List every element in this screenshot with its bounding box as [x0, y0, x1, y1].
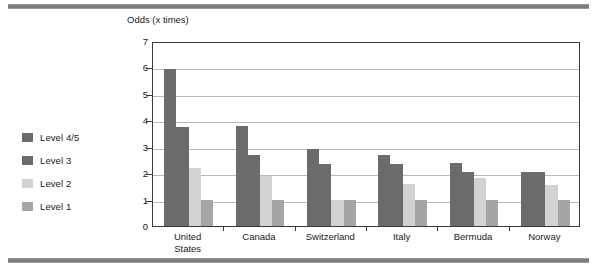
- legend-item: Level 3: [22, 149, 132, 172]
- bar: [319, 164, 331, 226]
- x-axis-category-label: Canada: [242, 231, 275, 243]
- legend-swatch-icon: [22, 179, 33, 188]
- bar: [248, 155, 260, 226]
- x-axis-category-label: Norway: [528, 231, 560, 243]
- bar: [201, 200, 213, 226]
- bar: [260, 176, 272, 226]
- legend-item: Level 4/5: [22, 126, 132, 149]
- bar: [474, 178, 486, 226]
- bar: [307, 149, 319, 226]
- bar: [378, 155, 390, 226]
- bar: [403, 184, 415, 226]
- legend-item-label: Level 3: [40, 155, 71, 166]
- legend-item-label: Level 4/5: [40, 132, 79, 143]
- chart-legend: Level 4/5Level 3Level 2Level 1: [22, 126, 132, 218]
- y-axis-tick-label: 2: [128, 169, 148, 179]
- x-axis-category-label-line: Italy: [393, 231, 410, 243]
- bar: [545, 185, 557, 226]
- x-axis-category-label: UnitedStates: [174, 231, 201, 254]
- figure-odds-by-level: Odds (x times) Level 4/5Level 3Level 2Le…: [0, 0, 597, 271]
- bar: [521, 172, 533, 226]
- bar: [331, 200, 343, 226]
- y-axis-tick-label: 4: [128, 117, 148, 127]
- legend-swatch-icon: [22, 156, 33, 165]
- legend-swatch-icon: [22, 202, 33, 211]
- x-axis-category-label-line: United: [174, 231, 201, 243]
- x-axis-category-label: Switzerland: [306, 231, 355, 243]
- bar: [164, 69, 176, 226]
- x-axis-category-label: Italy: [393, 231, 410, 243]
- bar: [390, 164, 402, 226]
- y-axis-tick-label: 5: [128, 90, 148, 100]
- y-axis-tick-label: 6: [128, 64, 148, 74]
- legend-item: Level 1: [22, 195, 132, 218]
- legend-item-label: Level 2: [40, 178, 71, 189]
- bar-series-layer: [153, 43, 579, 226]
- bar: [176, 127, 188, 226]
- top-divider-rule: [8, 4, 589, 9]
- bar: [415, 200, 427, 226]
- legend-swatch-icon: [22, 133, 33, 142]
- bar: [450, 163, 462, 226]
- y-axis-tick-label: 7: [128, 37, 148, 47]
- x-axis-category-label-line: Canada: [242, 231, 275, 243]
- y-axis-tick-label: 0: [128, 222, 148, 232]
- x-axis-category-label-line: States: [174, 243, 201, 255]
- legend-item: Level 2: [22, 172, 132, 195]
- plot-area: [152, 42, 580, 227]
- bar: [486, 200, 498, 226]
- y-axis-title: Odds (x times): [127, 14, 189, 25]
- y-axis-tick-labels: 76543210: [128, 42, 148, 227]
- x-axis-category-label-line: Norway: [528, 231, 560, 243]
- x-axis-category-label-line: Bermuda: [454, 231, 493, 243]
- x-axis-category-label: Bermuda: [454, 231, 493, 243]
- y-axis-tick-label: 1: [128, 196, 148, 206]
- bottom-divider-rule: [8, 258, 589, 263]
- bar: [272, 200, 284, 226]
- bar: [236, 126, 248, 226]
- x-axis-category-label-line: Switzerland: [306, 231, 355, 243]
- y-axis-tick-label: 3: [128, 143, 148, 153]
- bar: [189, 168, 201, 226]
- legend-item-label: Level 1: [40, 201, 71, 212]
- bar: [462, 172, 474, 226]
- bar: [533, 172, 545, 226]
- bar: [344, 200, 356, 226]
- bar: [558, 200, 570, 226]
